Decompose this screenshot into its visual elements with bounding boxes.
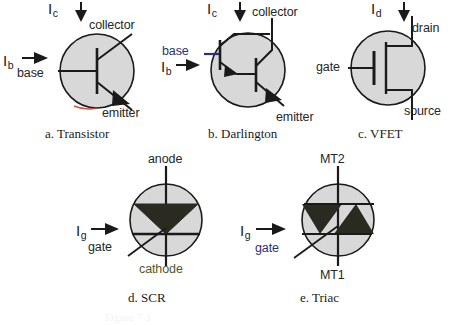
caption-scr: d. SCR — [128, 290, 166, 306]
darlington-collector-current: Ic — [207, 0, 217, 19]
caption-transistor: a. Transistor — [45, 126, 109, 142]
triac-symbol — [288, 168, 398, 278]
darlington-label-emitter: emitter — [276, 110, 314, 124]
transistor-label-emitter: emitter — [102, 106, 140, 120]
darlington-symbol — [198, 22, 308, 122]
caption-darlington: b. Darlington — [208, 126, 277, 142]
transistor-ic-arrow-icon — [72, 2, 90, 24]
caption-vfet: c. VFET — [358, 126, 403, 142]
darlington-label-collector: collector — [252, 5, 298, 19]
sheet-figure-note: Figure 7-1 — [105, 311, 151, 323]
transistor-base-current: Ib — [3, 52, 14, 71]
transistor-label-collector: collector — [89, 18, 135, 32]
scr-ig-arrow-icon — [91, 221, 121, 237]
triac-ig-arrow-icon — [256, 221, 288, 237]
vfet-id-arrow-icon — [395, 2, 413, 24]
figure-sheet: Ic collector Ib base emitter a. Transist… — [0, 0, 456, 325]
vfet-drain-current: Id — [371, 0, 382, 19]
figure-triac — [288, 168, 398, 278]
triac-label-gate: gate — [255, 241, 279, 255]
vfet-label-source: source — [404, 104, 441, 118]
triac-label-mt2: MT2 — [320, 152, 345, 166]
scr-label-cathode: cathode — [139, 262, 183, 276]
vfet-label-drain: drain — [412, 21, 439, 35]
figure-transistor — [40, 18, 160, 123]
transistor-label-base: base — [17, 66, 44, 80]
transistor-ib-arrow-icon — [22, 50, 50, 66]
vfet-label-gate: gate — [316, 60, 340, 74]
caption-triac: e. Triac — [300, 290, 339, 306]
darlington-ic-arrow-icon — [231, 2, 249, 24]
scr-label-gate: gate — [88, 240, 112, 254]
figure-darlington — [198, 22, 308, 122]
scr-gate-current: Ig — [76, 222, 87, 241]
transistor-collector-current: Ic — [48, 0, 58, 19]
darlington-base-current: Ib — [161, 58, 172, 77]
triac-label-mt1: MT1 — [320, 268, 345, 282]
darlington-label-base: base — [162, 44, 189, 58]
scr-label-anode: anode — [148, 152, 182, 166]
transistor-symbol — [40, 18, 160, 123]
triac-gate-current: Ig — [240, 222, 251, 241]
darlington-ib-arrow-icon — [176, 57, 202, 73]
